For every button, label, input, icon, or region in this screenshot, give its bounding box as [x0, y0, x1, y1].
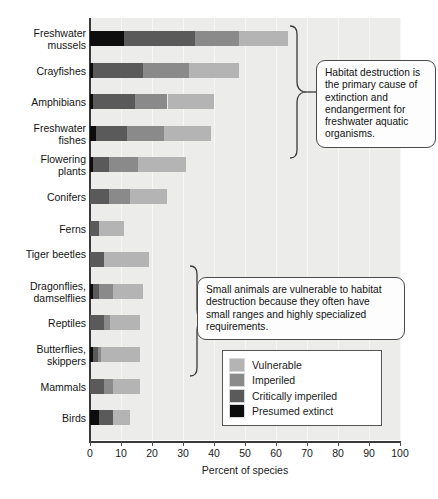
bar-segment [239, 31, 289, 46]
bar-segment [127, 126, 164, 141]
bar-segment [90, 315, 104, 330]
bar-row [90, 221, 124, 236]
category-label: Dragonflies, damselflies [30, 280, 86, 304]
tick-label-100: 100 [391, 447, 409, 459]
bar-segment [135, 94, 168, 109]
bar-segment [143, 63, 190, 78]
category-label: Freshwater mussels [33, 27, 86, 51]
tick-100 [400, 441, 401, 446]
callout-habitat-destruction: Habitat destruction is the primary cause… [316, 60, 436, 148]
bar-segment [93, 63, 143, 78]
bar-row [90, 315, 140, 330]
legend-swatch [229, 373, 245, 387]
tick-90 [369, 441, 370, 446]
bar-segment [113, 410, 130, 425]
category-label: Flowering plants [40, 153, 86, 177]
tick-70 [307, 441, 308, 446]
tick-label-60: 60 [270, 447, 282, 459]
bar-segment [189, 63, 239, 78]
bar-segment [101, 347, 140, 362]
tick-50 [245, 441, 246, 446]
legend-swatch [229, 358, 245, 372]
tick-label-30: 30 [177, 447, 189, 459]
tick-label-40: 40 [208, 447, 220, 459]
bar-segment [104, 379, 113, 394]
category-label: Amphibians [31, 96, 86, 108]
bar-segment [124, 31, 195, 46]
bar-segment [90, 379, 104, 394]
legend-swatch [229, 404, 245, 418]
legend-label: Vulnerable [252, 359, 302, 371]
bar-segment [93, 157, 109, 172]
category-label: Crayfishes [36, 65, 86, 77]
bar-row [90, 252, 149, 267]
category-label: Reptiles [48, 317, 86, 329]
bar-segment [130, 189, 167, 204]
tick-60 [276, 441, 277, 446]
category-label: Mammals [40, 381, 86, 393]
bar-segment [90, 189, 109, 204]
category-label: Tiger beetles [26, 248, 86, 260]
bar-row [90, 94, 214, 109]
bar-row [90, 410, 130, 425]
bar-segment [110, 315, 139, 330]
tick-label-20: 20 [146, 447, 158, 459]
legend-label: Imperiled [252, 374, 295, 386]
tick-label-10: 10 [115, 447, 127, 459]
species-endangerment-chart: Freshwater musselsCrayfishesAmphibiansFr… [0, 0, 438, 499]
legend: VulnerableImperiledCritically imperiledP… [222, 350, 382, 426]
bar-segment [109, 189, 131, 204]
bar-segment [90, 252, 104, 267]
bar-row [90, 379, 140, 394]
bar-row [90, 347, 140, 362]
bar-segment [99, 284, 113, 299]
bar-row [90, 157, 186, 172]
category-label: Ferns [59, 223, 86, 235]
bar-row [90, 126, 211, 141]
bar-segment [168, 94, 215, 109]
callout-small-animals: Small animals are vulnerable to habitat … [197, 277, 405, 340]
category-label: Freshwater fishes [33, 122, 86, 146]
bar-segment [96, 126, 127, 141]
bar-segment [93, 94, 135, 109]
bar-segment [109, 157, 138, 172]
tick-label-70: 70 [301, 447, 313, 459]
legend-item: Presumed extinct [229, 404, 375, 418]
x-axis-title: Percent of species [202, 464, 288, 476]
tick-30 [183, 441, 184, 446]
bar-segment [90, 221, 99, 236]
bar-segment [90, 31, 124, 46]
tick-label-50: 50 [239, 447, 251, 459]
gridline-40 [214, 18, 215, 440]
legend-item: Critically imperiled [229, 389, 375, 403]
bar-segment [138, 157, 186, 172]
bar-segment [104, 252, 149, 267]
bar-segment [195, 31, 238, 46]
bar-segment [164, 126, 211, 141]
category-label: Birds [62, 412, 86, 424]
tick-0 [90, 441, 91, 446]
bar-segment [99, 221, 124, 236]
gridline-30 [183, 18, 184, 440]
legend-item: Vulnerable [229, 358, 375, 372]
tick-80 [338, 441, 339, 446]
bar-row [90, 284, 143, 299]
gridline-20 [152, 18, 153, 440]
tick-40 [214, 441, 215, 446]
bar-segment [99, 410, 113, 425]
bar-segment [90, 410, 99, 425]
tick-20 [152, 441, 153, 446]
legend-label: Presumed extinct [252, 405, 333, 417]
tick-label-90: 90 [363, 447, 375, 459]
category-label: Butterflies, skippers [36, 343, 86, 367]
tick-10 [121, 441, 122, 446]
tick-label-80: 80 [332, 447, 344, 459]
tick-label-0: 0 [87, 447, 93, 459]
category-label: Conifers [47, 191, 86, 203]
bar-segment [113, 284, 142, 299]
legend-label: Critically imperiled [252, 390, 337, 402]
bar-row [90, 63, 239, 78]
bar-row [90, 189, 168, 204]
bar-row [90, 31, 288, 46]
legend-item: Imperiled [229, 373, 375, 387]
